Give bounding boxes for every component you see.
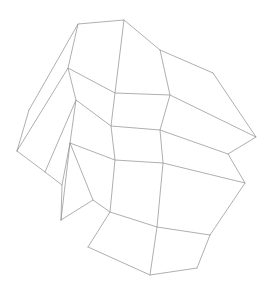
wireframe-mesh-figure	[0, 0, 269, 293]
mesh-canvas	[0, 0, 269, 293]
mesh-background	[0, 0, 269, 293]
